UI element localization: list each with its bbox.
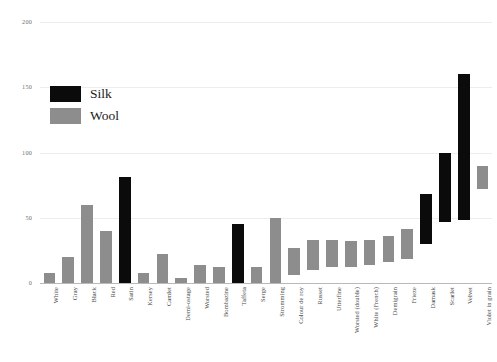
y-tick-label: 150 xyxy=(0,83,32,90)
x-tick-label: Camlet xyxy=(165,287,172,306)
x-tick-label: Demigrain xyxy=(391,287,398,315)
x-tick-label: Scarlet xyxy=(448,287,455,305)
legend-swatch-silk xyxy=(50,86,81,102)
x-tick-label: White xyxy=(52,287,59,303)
x-tick-label: Damask xyxy=(429,287,436,309)
bar xyxy=(420,194,432,244)
bars-group xyxy=(40,22,492,283)
bar xyxy=(458,74,470,220)
gridline-0 xyxy=(40,283,492,284)
bar xyxy=(213,267,225,283)
bar xyxy=(194,265,206,283)
bar xyxy=(119,177,131,283)
x-tick-label: Demi-ostage xyxy=(184,287,191,321)
x-tick-label: Worsted (double) xyxy=(353,287,360,333)
bar xyxy=(81,205,93,283)
x-axis-tick-labels: WhiteGrayBlackRedSatinKerseyCamletDemi-o… xyxy=(40,285,492,362)
bar xyxy=(270,218,282,283)
bar xyxy=(383,236,395,262)
bar xyxy=(477,166,489,189)
x-tick-label: Russet xyxy=(316,287,323,305)
x-tick-label: Utterfine xyxy=(335,287,342,311)
x-tick-label: Frieze xyxy=(410,287,417,304)
y-tick-label: 50 xyxy=(0,214,32,221)
bar xyxy=(157,254,169,283)
legend-item-silk: Silk xyxy=(50,86,119,102)
x-tick-label: Kersey xyxy=(146,287,153,306)
x-tick-label: White (French) xyxy=(372,287,379,328)
bar xyxy=(364,240,376,265)
x-tick-label: Satin xyxy=(127,287,134,301)
chart-legend: SilkWool xyxy=(50,86,119,130)
bar xyxy=(401,229,413,259)
y-tick-label: 200 xyxy=(0,18,32,25)
bar xyxy=(138,273,150,283)
bar xyxy=(251,267,263,283)
bar xyxy=(62,257,74,283)
bar xyxy=(307,240,319,270)
bar xyxy=(439,153,451,222)
bar xyxy=(232,224,244,283)
x-tick-label: Stromming xyxy=(278,287,285,317)
legend-swatch-wool xyxy=(50,108,81,124)
x-tick-label: Black xyxy=(90,287,97,302)
bar xyxy=(44,273,56,283)
y-tick-label: 0 xyxy=(0,279,32,286)
x-tick-label: Violet in grain xyxy=(485,287,492,325)
bar xyxy=(100,231,112,283)
x-tick-label: Serge xyxy=(259,287,266,302)
bar xyxy=(288,248,300,275)
legend-label-wool: Wool xyxy=(90,108,119,124)
x-tick-label: Gray xyxy=(71,287,78,300)
x-tick-label: Colour de roy xyxy=(297,287,304,324)
bar xyxy=(326,240,338,267)
legend-label-silk: Silk xyxy=(90,86,112,102)
bar xyxy=(175,278,187,283)
legend-item-wool: Wool xyxy=(50,108,119,124)
y-tick-label: 100 xyxy=(0,149,32,156)
bar xyxy=(345,241,357,267)
x-tick-label: Taffeta xyxy=(240,287,247,306)
chart-container: 050100150200 WhiteGrayBlackRedSatinKerse… xyxy=(0,0,497,362)
x-tick-label: Velvet xyxy=(466,287,473,304)
x-tick-label: Worsted xyxy=(203,287,210,309)
x-tick-label: Red xyxy=(109,287,116,298)
x-tick-label: Bombazine xyxy=(222,287,229,317)
